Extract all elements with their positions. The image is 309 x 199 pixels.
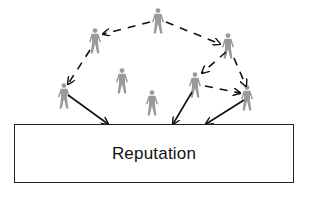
- dashed-arrow: [103, 22, 150, 34]
- reputation-box: Reputation: [14, 124, 294, 183]
- person-icon: [152, 8, 164, 33]
- solid-arrow: [206, 100, 244, 124]
- person-icon: [89, 28, 101, 53]
- dashed-arrow: [166, 22, 220, 44]
- reputation-diagram: Reputation: [0, 0, 309, 199]
- people-layer: [58, 8, 253, 115]
- dashed-arrow: [202, 52, 226, 73]
- solid-arrow: [173, 92, 192, 124]
- dashed-arrow: [234, 58, 246, 86]
- reputation-label: Reputation: [112, 144, 196, 164]
- dashed-arrow: [68, 50, 90, 84]
- dashed-arrow: [205, 86, 240, 93]
- person-icon: [146, 90, 158, 115]
- solid-arrows-layer: [68, 92, 244, 124]
- person-icon: [241, 85, 253, 110]
- solid-arrow: [68, 95, 108, 124]
- person-icon: [116, 68, 128, 93]
